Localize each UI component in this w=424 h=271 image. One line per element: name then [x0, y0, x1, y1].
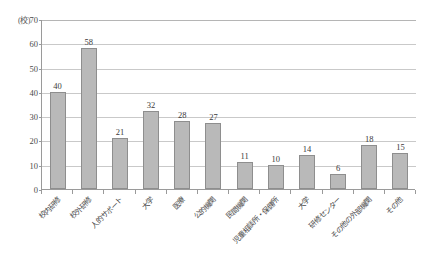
bar-slot: 14: [291, 20, 322, 189]
bar-value-label: 28: [178, 110, 187, 120]
x-axis-label-slot: その他の外部機関: [353, 194, 384, 271]
x-axis-tick-label: 大学: [140, 196, 155, 211]
x-axis-tick-label: 公的機関: [193, 196, 218, 221]
x-axis-tick-mark: [415, 190, 416, 194]
bar-slot: 10: [260, 20, 291, 189]
bar[interactable]: [112, 138, 128, 189]
bar[interactable]: [237, 162, 253, 189]
bar-slot: 21: [104, 20, 135, 189]
x-axis-tick-label: 校外研修: [68, 196, 93, 221]
x-axis-label-slot: 公的機関: [197, 194, 228, 271]
bar[interactable]: [361, 145, 377, 189]
bar-value-label: 27: [209, 112, 218, 122]
y-axis-tick-mark: [39, 93, 42, 94]
bar-value-label: 10: [272, 154, 281, 164]
bar-value-label: 6: [336, 163, 340, 173]
bar-slot: 32: [136, 20, 167, 189]
bar[interactable]: [330, 174, 346, 189]
bar-value-label: 21: [116, 127, 125, 137]
x-axis-tick-label: 民間機関: [224, 196, 249, 221]
y-axis-tick-label: 70: [16, 15, 38, 25]
y-axis-tick-mark: [39, 44, 42, 45]
y-axis-tick-mark: [39, 166, 42, 167]
y-axis-tick-label: 10: [16, 161, 38, 171]
x-axis-tick-label: その他: [385, 196, 405, 216]
bar-slot: 18: [354, 20, 385, 189]
bar-series: 40582132282711101461815: [42, 20, 416, 189]
bar-slot: 15: [385, 20, 416, 189]
x-axis-tick-label: 大学: [296, 196, 311, 211]
x-axis-label-slot: 校内研修: [41, 194, 72, 271]
y-axis-tick-label: 50: [16, 64, 38, 74]
bar-slot: 40: [42, 20, 73, 189]
bar-slot: 6: [323, 20, 354, 189]
bar-slot: 11: [229, 20, 260, 189]
y-axis-tick-mark: [39, 117, 42, 118]
y-axis-tick-label: 30: [16, 112, 38, 122]
bar-slot: 28: [167, 20, 198, 189]
bar[interactable]: [143, 111, 159, 189]
bar[interactable]: [392, 153, 408, 189]
plot-area: 40582132282711101461815: [41, 20, 415, 190]
bar[interactable]: [81, 48, 97, 189]
bar-slot: 27: [198, 20, 229, 189]
y-axis-tick-label: 60: [16, 39, 38, 49]
y-axis-tick-label: 40: [16, 88, 38, 98]
x-axis-label-slot: 児童相談所・保健所: [259, 194, 290, 271]
y-axis-tick-mark: [39, 69, 42, 70]
bar-value-label: 18: [365, 134, 374, 144]
bar-chart: (校) 010203040506070 40582132282711101461…: [0, 0, 424, 271]
x-axis-tick-label: 校内研修: [37, 196, 62, 221]
bar[interactable]: [50, 92, 66, 189]
bar-value-label: 15: [396, 142, 405, 152]
y-axis-tick-mark: [39, 20, 42, 21]
x-axis-label-slot: 大学: [290, 194, 321, 271]
x-axis-label-slot: 医療: [166, 194, 197, 271]
y-axis-tick-label: 0: [16, 185, 38, 195]
bar[interactable]: [174, 121, 190, 189]
bar[interactable]: [268, 165, 284, 189]
bar-slot: 58: [73, 20, 104, 189]
x-axis-label-slot: その他: [384, 194, 415, 271]
bar-value-label: 58: [85, 37, 94, 47]
bar-value-label: 11: [241, 151, 249, 161]
y-axis-tick-label: 20: [16, 136, 38, 146]
x-axis-tick-labels: 校内研修校外研修人的サポート大学医療公的機関民間機関児童相談所・保健所大学研修セ…: [41, 194, 415, 271]
x-axis-label-slot: 校外研修: [72, 194, 103, 271]
y-axis-tick-labels: 010203040506070: [14, 20, 38, 190]
bar-value-label: 14: [303, 144, 312, 154]
bar-value-label: 40: [53, 81, 62, 91]
bar[interactable]: [299, 155, 315, 189]
bar[interactable]: [205, 123, 221, 189]
x-axis-label-slot: 人的サポート: [103, 194, 134, 271]
x-axis-label-slot: 大学: [135, 194, 166, 271]
bar-value-label: 32: [147, 100, 156, 110]
x-axis-tick-label: 医療: [172, 196, 187, 211]
y-axis-tick-mark: [39, 141, 42, 142]
